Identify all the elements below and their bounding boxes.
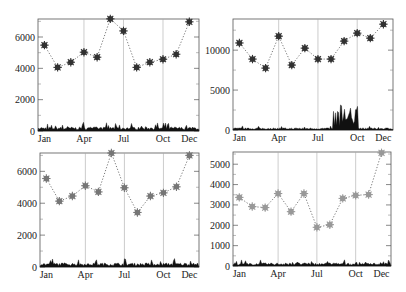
star-marker	[274, 189, 282, 197]
y-tick-label: 2000	[210, 220, 230, 231]
y-tick-label: 10000	[205, 45, 230, 56]
star-marker	[106, 15, 114, 23]
star-marker	[377, 149, 385, 157]
star-marker	[93, 53, 101, 61]
x-tick-label: Dec	[181, 269, 198, 280]
y-tick-label: 5000	[210, 85, 230, 96]
star-marker	[314, 55, 322, 63]
star-marker	[42, 174, 50, 182]
daily-series	[38, 122, 199, 131]
y-tick-label: 4000	[15, 63, 35, 74]
y-tick-label: 5000	[210, 159, 230, 170]
y-tick-label: 0	[30, 126, 35, 137]
star-marker	[301, 44, 309, 52]
star-marker	[120, 184, 128, 192]
y-tick-label: 2000	[15, 94, 35, 105]
star-marker	[339, 194, 347, 202]
star-marker	[80, 48, 88, 56]
x-tick-label: Jan	[38, 133, 51, 144]
star-marker	[40, 41, 48, 49]
star-marker	[55, 197, 63, 205]
star-marker	[68, 192, 76, 200]
star-marker	[351, 191, 359, 199]
star-marker	[119, 27, 127, 35]
star-marker	[353, 29, 361, 37]
x-tick-label: Jan	[233, 268, 246, 279]
star-marker	[313, 223, 321, 231]
x-tick-label: Dec	[181, 133, 198, 144]
y-tick-label: 6000	[17, 166, 37, 177]
plot-frame	[233, 152, 391, 266]
x-tick-label: Oct	[156, 269, 171, 280]
plot-frame	[40, 153, 199, 267]
star-marker	[53, 63, 61, 71]
x-tick-label: Jan	[233, 132, 246, 143]
y-tick-label: 0	[225, 125, 230, 136]
y-tick-label: 4000	[17, 198, 37, 209]
star-marker	[172, 183, 180, 191]
star-marker	[366, 34, 374, 42]
x-tick-label: Jan	[40, 269, 53, 280]
monthly-line	[239, 24, 383, 68]
star-marker	[288, 61, 296, 69]
star-marker	[326, 220, 334, 228]
panel-bottom-right: 010002000300040005000JanAprJulOctDec	[210, 149, 391, 279]
star-marker	[274, 32, 282, 40]
star-marker	[67, 58, 75, 66]
star-marker	[248, 202, 256, 210]
x-tick-label: Oct	[156, 133, 171, 144]
y-tick-label: 1000	[210, 240, 230, 251]
y-tick-label: 6000	[15, 32, 35, 43]
daily-series	[233, 260, 391, 266]
x-tick-label: Jul	[312, 132, 324, 143]
x-tick-label: Apr	[76, 133, 92, 144]
star-marker	[159, 189, 167, 197]
star-marker	[300, 189, 308, 197]
x-tick-label: Jul	[118, 133, 130, 144]
star-marker	[185, 151, 193, 159]
monthly-line	[46, 153, 189, 212]
x-tick-label: Oct	[350, 132, 365, 143]
x-tick-label: Oct	[348, 268, 363, 279]
star-marker	[261, 203, 269, 211]
star-marker	[340, 37, 348, 45]
panel-top-left: 0200040006000JanAprJulOctDec	[15, 15, 199, 144]
star-marker	[235, 193, 243, 201]
star-marker	[379, 20, 387, 28]
panel-top-right: 0500010000JanAprJulOctDec	[205, 19, 393, 143]
y-tick-label: 0	[225, 261, 230, 272]
chart-grid: 0200040006000JanAprJulOctDec0500010000Ja…	[0, 0, 406, 292]
monthly-line	[44, 19, 189, 68]
daily-series	[40, 259, 199, 267]
star-marker	[107, 149, 115, 157]
star-marker	[81, 181, 89, 189]
x-tick-label: Dec	[373, 268, 390, 279]
star-marker	[364, 190, 372, 198]
panel-bottom-left: 0200040006000JanAprJulOctDec	[17, 149, 199, 280]
y-tick-label: 0	[32, 262, 37, 273]
star-marker	[132, 63, 140, 71]
star-marker	[248, 55, 256, 63]
star-marker	[146, 58, 154, 66]
y-tick-label: 4000	[210, 179, 230, 190]
y-tick-label: 2000	[17, 230, 37, 241]
x-tick-label: Jul	[119, 269, 131, 280]
star-marker	[327, 55, 335, 63]
star-marker	[159, 55, 167, 63]
star-marker	[133, 208, 141, 216]
x-tick-label: Apr	[270, 268, 286, 279]
star-marker	[261, 64, 269, 72]
star-marker	[146, 192, 154, 200]
star-marker	[287, 207, 295, 215]
star-marker	[172, 50, 180, 58]
star-marker	[185, 18, 193, 26]
plot-frame	[38, 19, 199, 131]
daily-series	[233, 105, 393, 130]
x-tick-label: Dec	[375, 132, 392, 143]
star-marker	[94, 188, 102, 196]
y-tick-label: 3000	[210, 199, 230, 210]
monthly-line	[239, 153, 381, 228]
star-marker	[235, 39, 243, 47]
x-tick-label: Apr	[271, 132, 287, 143]
x-tick-label: Apr	[78, 269, 94, 280]
